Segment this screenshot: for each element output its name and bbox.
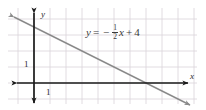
y-axis-unit-tick-label: 1 [24,60,29,69]
x-axis-unit-tick-label: 1 [46,88,51,97]
coordinate-plane-figure: y x 1 1 y = − 1 2 x + 4 [0,0,206,110]
equation-plus-sign: + [126,27,132,38]
fraction-numerator: 1 [112,24,118,32]
equation-fraction-one-half: 1 2 [112,24,118,41]
equation-lhs: y [86,27,91,38]
equation-minus-sign: − [103,27,109,38]
grid-lines [8,8,197,104]
x-axis-label: x [190,72,194,81]
graph-canvas [0,0,206,110]
equation-constant: 4 [134,27,140,38]
equation-annotation: y = − 1 2 x + 4 [86,24,140,41]
equation-variable-x: x [119,27,124,38]
fraction-denominator: 2 [112,33,118,41]
y-axis-label: y [41,10,45,19]
equation-equals-sign: = [93,27,99,38]
